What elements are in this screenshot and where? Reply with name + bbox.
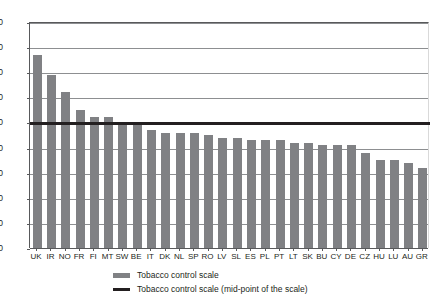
x-axis-tick-mark [208, 248, 209, 251]
x-axis-tick-mark [422, 248, 423, 251]
gridline [30, 248, 428, 249]
x-axis-tick-mark [165, 248, 166, 251]
x-axis-tick-mark [393, 248, 394, 251]
x-axis-tick-mark [179, 248, 180, 251]
y-axis-tick-label: 10 [0, 219, 3, 228]
legend-item-label: Tobacco control scale (mid-point of the … [137, 284, 308, 294]
x-axis-tick-mark [193, 248, 194, 251]
y-axis-tick-label: 40 [0, 144, 3, 153]
x-axis-tick-mark [50, 248, 51, 251]
midpoint-line [30, 122, 430, 125]
y-axis-tick-label: 50 [0, 118, 3, 127]
x-axis-tick-mark [150, 248, 151, 251]
tobacco-control-scale-chart: 0102030405060708090 UKIRNOFRFIMTSWBEITDK… [0, 0, 436, 300]
midpoint-reference-line [30, 23, 428, 248]
x-axis-tick-mark [322, 248, 323, 251]
y-axis-tick-label: 70 [0, 68, 3, 77]
x-axis-tick-mark [122, 248, 123, 251]
y-axis-tick-mark [27, 249, 30, 250]
x-axis-tick-mark [279, 248, 280, 251]
x-axis-tick-mark [108, 248, 109, 251]
y-axis-tick-label: 20 [0, 194, 3, 203]
legend-item-label: Tobacco control scale [137, 270, 219, 280]
y-axis-tick-label: 90 [0, 18, 3, 27]
x-axis-tick-mark [36, 248, 37, 251]
x-axis-tick-mark [79, 248, 80, 251]
chart-legend: Tobacco control scale Tobacco control sc… [113, 268, 433, 296]
x-axis-tick-mark [93, 248, 94, 251]
x-axis-tick-mark [308, 248, 309, 251]
x-axis-tick-mark [379, 248, 380, 251]
y-axis-tick-label: 0 [0, 244, 3, 253]
x-axis-tick-mark [350, 248, 351, 251]
x-axis-tick-mark [336, 248, 337, 251]
x-axis-tick-mark [236, 248, 237, 251]
legend-bar-swatch-icon [113, 273, 130, 278]
x-axis-tick-mark [293, 248, 294, 251]
legend-item-bar: Tobacco control scale [113, 268, 433, 282]
x-axis-tick-mark [222, 248, 223, 251]
x-axis-tick-mark [65, 248, 66, 251]
x-axis-tick-mark [136, 248, 137, 251]
y-axis-tick-label: 30 [0, 169, 3, 178]
x-axis-tick-label: GR [411, 252, 433, 261]
legend-line-swatch-icon [113, 288, 130, 291]
x-axis-tick-mark [265, 248, 266, 251]
y-axis-tick-label: 80 [0, 43, 3, 52]
x-axis-tick-mark [250, 248, 251, 251]
legend-item-midpoint: Tobacco control scale (mid-point of the … [113, 282, 433, 296]
x-axis-tick-mark [365, 248, 366, 251]
y-axis-tick-label: 60 [0, 93, 3, 102]
x-axis-tick-mark [408, 248, 409, 251]
plot-area [29, 22, 429, 248]
